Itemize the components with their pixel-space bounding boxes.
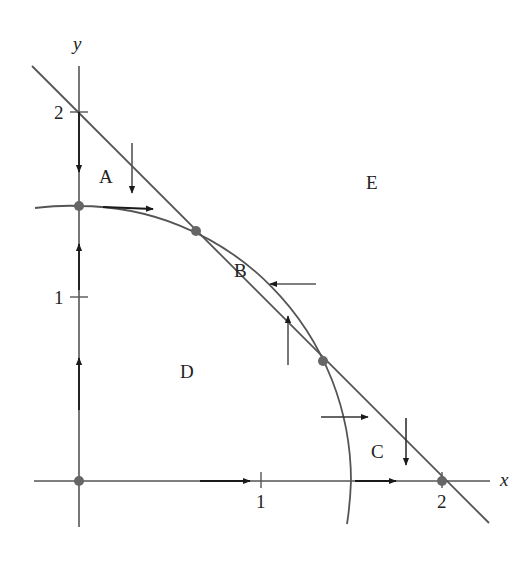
region-label-e: E [366, 172, 378, 193]
region-label-d: D [180, 361, 194, 382]
region-label-b: B [234, 260, 247, 281]
y-tick-label-1: 1 [54, 287, 64, 308]
region-label-a: A [99, 166, 113, 187]
phase-plane-diagram: y x 1 2 1 2 A B C D E [0, 0, 526, 564]
equilibrium-origin [74, 476, 84, 486]
x-tick-label-1: 1 [256, 491, 266, 512]
region-label-c: C [371, 441, 384, 462]
equilibrium-lower [318, 356, 328, 366]
x-axis-label: x [499, 469, 509, 490]
x-tick-label-2: 2 [437, 491, 447, 512]
equilibrium-x-axis [437, 476, 447, 486]
y-axis-label: y [71, 33, 82, 54]
nullcline-line [32, 66, 489, 523]
y-tick-label-2: 2 [54, 102, 64, 123]
equilibrium-y-axis [74, 201, 84, 211]
equilibrium-upper [191, 226, 201, 236]
